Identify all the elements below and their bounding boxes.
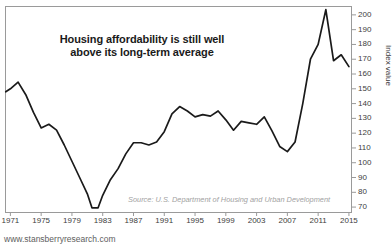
x-tick-label: 2007 (278, 216, 296, 225)
y-tick-label: 170 (358, 54, 371, 63)
y-tick-label: 160 (358, 69, 371, 78)
x-tick-label: 1999 (217, 216, 235, 225)
x-tick-label: 1971 (1, 216, 19, 225)
y-tick-label: 110 (358, 143, 371, 152)
source-note: Source: U.S. Department of Housing and U… (128, 195, 330, 204)
x-tick-label: 1991 (155, 216, 173, 225)
y-tick-label: 100 (358, 158, 371, 167)
chart-title: Housing affordability is still well abov… (22, 33, 262, 59)
x-tick-label: 1987 (125, 216, 143, 225)
y-tick-label: 180 (358, 39, 371, 48)
x-tick-label: 1995 (186, 216, 204, 225)
chart-title-line-2: above its long-term average (22, 46, 262, 59)
y-tick-label: 120 (358, 128, 371, 137)
chart-figure: Housing affordability is still well abov… (0, 0, 392, 250)
x-tick-label: 2011 (310, 216, 327, 225)
y-tick-label: 130 (358, 113, 371, 122)
y-tick-label: 150 (358, 84, 371, 93)
x-tick-label: 2015 (340, 216, 358, 225)
x-tick-label: 1983 (94, 216, 112, 225)
y-tick-label: 140 (358, 99, 371, 108)
y-tick-label: 190 (358, 25, 371, 34)
chart-title-line-1: Housing affordability is still well (22, 33, 262, 46)
x-tick-label: 2003 (248, 216, 266, 225)
y-tick-label: 80 (358, 187, 367, 196)
y-tick-label: 200 (358, 10, 371, 19)
y-axis-title: Index value (384, 45, 392, 86)
x-tick-label: 1979 (63, 216, 81, 225)
y-tick-label: 90 (358, 173, 367, 182)
y-tick-label: 70 (358, 202, 367, 211)
watermark-url: www.stansberryresearch.com (4, 234, 115, 244)
x-tick-label: 1975 (32, 216, 50, 225)
